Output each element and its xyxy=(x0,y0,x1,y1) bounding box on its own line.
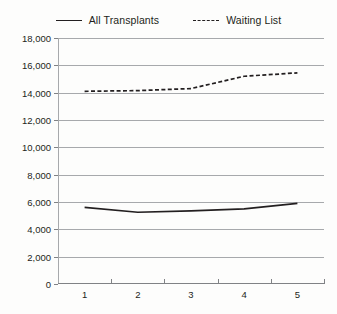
legend-line-sample-dashed-icon xyxy=(193,20,219,21)
x-axis-tick xyxy=(324,279,325,284)
y-axis-tick-label: 14,000 xyxy=(22,87,51,98)
legend-label-waiting-list: Waiting List xyxy=(226,14,281,26)
y-axis-tick-label: 4,000 xyxy=(27,224,51,235)
chart-legend: All Transplants Waiting List xyxy=(0,10,337,30)
legend-item-all-transplants: All Transplants xyxy=(56,14,159,26)
line-chart: All Transplants Waiting List 02,0004,000… xyxy=(0,0,337,314)
series-lines xyxy=(58,38,324,284)
y-axis-tick-label: 0 xyxy=(46,279,51,290)
x-axis-tick-label: 1 xyxy=(82,289,87,300)
y-axis-tick-label: 8,000 xyxy=(27,169,51,180)
y-axis-tick-label: 16,000 xyxy=(22,60,51,71)
legend-item-waiting-list: Waiting List xyxy=(193,14,281,26)
y-axis-tick-label: 2,000 xyxy=(27,251,51,262)
y-axis-tick-label: 12,000 xyxy=(22,115,51,126)
x-axis-tick-label: 5 xyxy=(295,289,300,300)
x-axis-tick-label: 4 xyxy=(242,289,247,300)
legend-line-sample-solid-icon xyxy=(56,20,82,21)
x-axis-tick-label: 3 xyxy=(188,289,193,300)
y-axis-tick-label: 10,000 xyxy=(22,142,51,153)
series-line-waiting-list xyxy=(85,73,298,91)
y-axis-tick-label: 18,000 xyxy=(22,33,51,44)
x-axis-tick-label: 2 xyxy=(135,289,140,300)
legend-label-all-transplants: All Transplants xyxy=(89,14,159,26)
plot-area: 02,0004,0006,0008,00010,00012,00014,0001… xyxy=(58,38,324,284)
series-line-all-transplants xyxy=(85,203,298,212)
y-axis-tick xyxy=(54,284,58,285)
y-axis-tick-label: 6,000 xyxy=(27,197,51,208)
